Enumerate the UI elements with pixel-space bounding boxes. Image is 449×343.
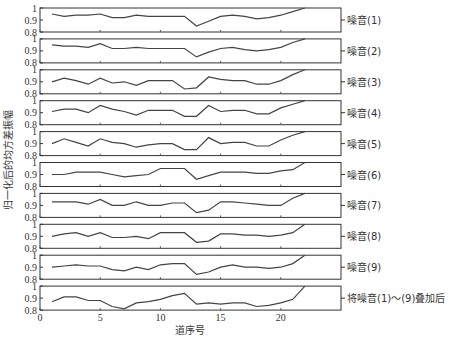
panel-label-4: 噪音(4) — [347, 107, 381, 119]
y-tick-label: 1 — [32, 281, 37, 292]
panel-frame — [40, 132, 341, 156]
series-line-6 — [52, 163, 305, 180]
panel-label-9: 噪音(9) — [347, 261, 381, 273]
panel-6: 10.90.8噪音(6) — [25, 157, 382, 192]
y-tick-label: 0.9 — [25, 45, 38, 56]
y-tick-label: 0.9 — [25, 138, 38, 149]
panel-7: 10.90.8噪音(7) — [25, 188, 382, 223]
series-line-2 — [52, 39, 305, 57]
panel-label-6: 噪音(6) — [347, 169, 381, 181]
panel-1: 10.90.8噪音(1) — [25, 3, 382, 38]
series-line-7 — [52, 193, 305, 212]
chart: 10.90.8噪音(1)10.90.8噪音(2)10.90.8噪音(3)10.9… — [0, 0, 449, 343]
y-tick-label: 0.9 — [25, 200, 38, 211]
x-tick-label: 15 — [216, 312, 226, 323]
y-tick-label: 1 — [32, 126, 37, 137]
y-tick-label: 1 — [32, 33, 37, 44]
series-line-3 — [52, 70, 305, 89]
series-line-8 — [52, 224, 305, 242]
panel-label-7: 噪音(7) — [347, 199, 381, 211]
panel-label-8: 噪音(8) — [347, 230, 381, 242]
panel-frame — [40, 224, 341, 248]
panel-10: 10.90.8将噪音(1)～(9)叠加后 — [25, 281, 446, 316]
y-tick-label: 1 — [32, 219, 37, 230]
series-line-4 — [52, 101, 305, 117]
y-tick-label: 1 — [32, 64, 37, 75]
panel-5: 10.90.8噪音(5) — [25, 126, 382, 161]
y-tick-label: 1 — [32, 3, 37, 14]
panel-frame — [40, 255, 341, 279]
series-line-5 — [52, 132, 305, 150]
y-tick-label: 1 — [32, 157, 37, 168]
panel-label-2: 噪音(2) — [347, 45, 381, 57]
panel-label-1: 噪音(1) — [347, 14, 381, 26]
panel-label-5: 噪音(5) — [347, 138, 381, 150]
panel-label-10: 将噪音(1)～(9)叠加后 — [347, 292, 445, 304]
panel-8: 10.90.8噪音(8) — [25, 219, 382, 254]
panel-label-3: 噪音(3) — [347, 76, 381, 88]
x-axis-label: 道序号 — [175, 324, 205, 336]
y-tick-label: 0.9 — [25, 76, 38, 87]
y-tick-label: 0.9 — [25, 15, 38, 26]
y-tick-label: 1 — [32, 250, 37, 261]
y-tick-label: 0.9 — [25, 262, 38, 273]
panel-4: 10.90.8噪音(4) — [25, 95, 382, 130]
y-tick-label: 0.8 — [25, 305, 38, 316]
x-tick-label: 5 — [98, 312, 103, 323]
panel-9: 10.90.8噪音(9) — [25, 250, 382, 285]
x-tick-label: 10 — [155, 312, 165, 323]
panel-frame — [40, 101, 341, 125]
y-tick-label: 1 — [32, 95, 37, 106]
y-tick-label: 0.9 — [25, 231, 38, 242]
y-tick-label: 0.9 — [25, 107, 38, 118]
panel-2: 10.90.8噪音(2) — [25, 33, 382, 68]
series-line-10 — [52, 286, 305, 309]
x-tick-label: 20 — [276, 312, 286, 323]
y-axis-label: 归一化后的均方差振幅 — [2, 110, 14, 210]
panel-3: 10.90.8噪音(3) — [25, 64, 382, 99]
series-line-1 — [52, 8, 305, 26]
x-tick-label: 0 — [38, 312, 43, 323]
y-tick-label: 0.9 — [25, 169, 38, 180]
y-tick-label: 1 — [32, 188, 37, 199]
y-tick-label: 0.9 — [25, 293, 38, 304]
panel-frame — [40, 8, 341, 32]
panel-frame — [40, 39, 341, 63]
series-line-9 — [52, 255, 305, 274]
